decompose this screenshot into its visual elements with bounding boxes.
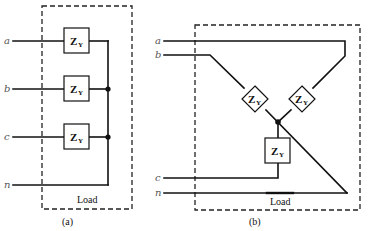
- caption-b: (b): [249, 216, 261, 228]
- svg-text:Y: Y: [78, 41, 83, 49]
- terminal-n-label: n: [155, 187, 161, 198]
- svg-text:Z: Z: [295, 93, 302, 105]
- impedance-b: Z Y: [64, 76, 89, 101]
- terminal-c-label: c: [4, 131, 10, 142]
- neutral-node: [275, 119, 281, 125]
- impedance-a-diamond: Z Y: [289, 86, 315, 112]
- terminal-b-label: b: [4, 83, 10, 94]
- svg-text:Z: Z: [70, 83, 77, 95]
- load-label-b: Load: [270, 196, 291, 207]
- svg-text:Y: Y: [303, 99, 308, 107]
- panel-a: a b c n Z Y Z Y Z Y Load: [4, 6, 132, 228]
- svg-text:Y: Y: [256, 99, 261, 107]
- terminal-n-label: n: [4, 179, 10, 190]
- load-enclosure-b: [195, 25, 360, 210]
- svg-text:Z: Z: [271, 145, 278, 157]
- svg-text:Z: Z: [70, 131, 77, 143]
- impedance-c-box: Z Y: [265, 138, 290, 163]
- junction-node: [105, 134, 110, 139]
- panel-b: a b c n Z Y Z Y: [155, 25, 360, 228]
- impedance-a: Z Y: [64, 28, 89, 53]
- svg-text:Y: Y: [279, 151, 284, 159]
- wire-a: [164, 41, 345, 88]
- terminal-b-label: b: [155, 49, 161, 60]
- junction-node: [105, 86, 110, 91]
- svg-text:Z: Z: [248, 93, 255, 105]
- impedance-b-diamond: Z Y: [242, 86, 268, 112]
- wye-load-diagram: a b c n Z Y Z Y Z Y Load: [0, 0, 368, 231]
- terminal-a-label: a: [155, 35, 161, 46]
- wire-b: [164, 55, 244, 88]
- svg-text:Y: Y: [78, 89, 83, 97]
- terminal-c-label: c: [155, 172, 161, 183]
- load-label-a: Load: [77, 194, 98, 205]
- svg-text:Y: Y: [78, 137, 83, 145]
- terminal-a-label: a: [4, 35, 10, 46]
- impedance-c: Z Y: [64, 124, 89, 149]
- caption-a: (a): [62, 216, 73, 228]
- wire-c: [164, 163, 278, 178]
- svg-text:Z: Z: [70, 35, 77, 47]
